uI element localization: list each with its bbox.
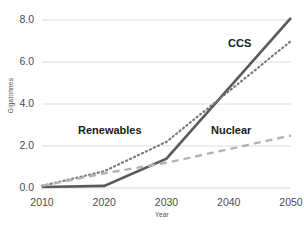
series-label-nuclear: Nuclear bbox=[211, 124, 251, 136]
series-paths bbox=[42, 18, 291, 187]
y-axis-tick-2.0: 2.0 bbox=[6, 139, 34, 151]
line-chart: 0.02.04.06.08.0 20102020203020402050 Gig… bbox=[0, 0, 304, 230]
series-label-ccs: CCS bbox=[228, 37, 251, 49]
series-line-nuclear bbox=[42, 136, 291, 186]
y-axis-tick-0.0: 0.0 bbox=[6, 181, 34, 193]
x-axis-title: Year bbox=[132, 211, 192, 218]
x-axis-tick-2020: 2020 bbox=[84, 196, 124, 208]
x-axis-tick-2030: 2030 bbox=[147, 196, 187, 208]
y-axis-title: Gigatonnes bbox=[7, 66, 14, 126]
series-label-renewables: Renewables bbox=[78, 124, 142, 136]
series-line-renewables bbox=[42, 41, 291, 186]
x-axis-tick-2050: 2050 bbox=[271, 196, 304, 208]
x-axis-tick-2040: 2040 bbox=[209, 196, 249, 208]
y-axis-tick-8.0: 8.0 bbox=[6, 13, 34, 25]
x-axis-tick-2010: 2010 bbox=[22, 196, 62, 208]
